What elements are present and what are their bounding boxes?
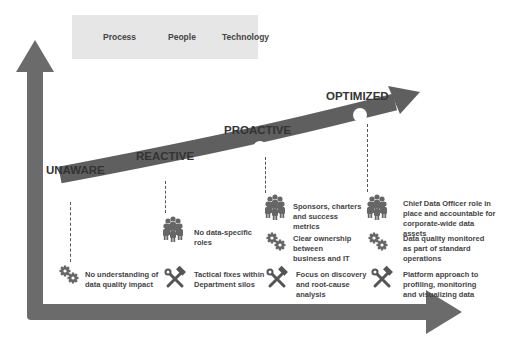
node-unaware [63,186,77,200]
stage-optimized: OPTIMIZED [326,90,389,102]
note-optimized-tech: Platform approach to profiling, monitori… [403,270,489,300]
connector-optimized [367,124,368,192]
y-axis [27,55,43,310]
note-optimized-process: Data quality monitored as part of standa… [403,234,489,264]
note-optimized-people: Chief Data Officer role in place and acc… [403,199,499,239]
legend-process: Process [103,32,136,42]
stage-proactive: PROACTIVE [224,124,291,136]
connector-reactive [165,181,166,213]
connector-unaware [70,202,71,262]
note-proactive-people: Sponsors, charters and success metrics [293,202,365,232]
note-reactive-tech: Tactical fixes within Department silos [194,270,274,290]
note-proactive-process: Clear ownership between business and IT [293,234,357,264]
note-unaware-process: No understanding of data quality impact [85,270,163,290]
node-reactive [158,165,172,179]
connector-proactive [265,157,266,193]
y-axis-arrowhead [16,40,54,72]
node-optimized [353,108,367,122]
note-proactive-tech: Focus on discovery and root-cause analys… [296,270,372,300]
stage-unaware: UNAWARE [46,164,105,176]
legend-technology: Technology [222,32,269,42]
maturity-arrow [60,102,395,175]
legend-people: People [168,32,196,42]
node-proactive [253,141,267,155]
stage-reactive: REACTIVE [136,150,194,162]
note-reactive-people: No data-specific roles [194,228,254,248]
x-axis [27,304,437,320]
